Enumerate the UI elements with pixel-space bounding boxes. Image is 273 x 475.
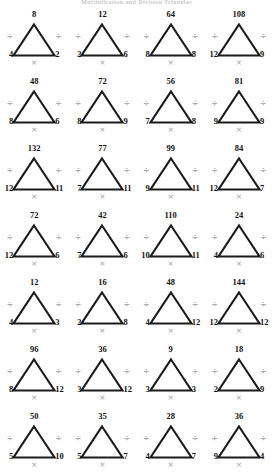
multiply-icon-bottom: × <box>236 327 242 335</box>
product-value: 99 <box>166 144 175 153</box>
product-value: 28 <box>166 412 175 421</box>
product-value: 144 <box>233 278 246 287</box>
factor-left-value: 9 <box>214 452 218 461</box>
triangle-problem-21[interactable]: 96 ÷ ÷ × 8 12 <box>0 341 68 408</box>
triangle-shape <box>79 424 125 460</box>
triangle-shape <box>148 223 194 259</box>
factor-right-value: 6 <box>123 251 127 260</box>
divide-icon-left: ÷ <box>75 368 82 376</box>
triangle-shape <box>79 223 125 259</box>
triangle-problem-16[interactable]: 24 ÷ ÷ × 4 6 <box>205 207 273 274</box>
product-value: 72 <box>30 211 39 220</box>
triangle-problem-14[interactable]: 42 ÷ ÷ × 7 6 <box>68 207 136 274</box>
triangle-shape <box>216 357 262 393</box>
product-value: 12 <box>98 10 107 19</box>
multiply-icon-bottom: × <box>167 193 173 201</box>
triangle-problem-28[interactable]: 36 ÷ ÷ × 9 4 <box>205 408 273 475</box>
triangle-shape <box>148 22 194 58</box>
divide-icon-left: ÷ <box>6 368 13 376</box>
factor-right-value: 2 <box>55 50 59 59</box>
divide-icon-left: ÷ <box>143 301 150 309</box>
triangle-problem-18[interactable]: 16 ÷ ÷ × 2 8 <box>68 274 136 341</box>
divide-icon-right: ÷ <box>123 301 130 309</box>
factor-left-value: 7 <box>77 184 81 193</box>
product-value: 36 <box>235 412 244 421</box>
triangle-problem-5[interactable]: 48 ÷ ÷ × 8 6 <box>0 73 68 140</box>
multiply-icon-bottom: × <box>99 126 105 134</box>
product-value: 50 <box>30 412 39 421</box>
triangle-problem-17[interactable]: 12 ÷ ÷ × 4 3 <box>0 274 68 341</box>
triangle-problem-3[interactable]: 64 ÷ ÷ × 8 8 <box>137 6 205 73</box>
divide-icon-right: ÷ <box>55 368 62 376</box>
divide-icon-right: ÷ <box>260 33 267 41</box>
multiply-icon-bottom: × <box>236 59 242 67</box>
factor-left-value: 9 <box>214 117 218 126</box>
triangle-problem-6[interactable]: 72 ÷ ÷ × 8 9 <box>68 73 136 140</box>
divide-icon-left: ÷ <box>143 435 150 443</box>
triangle-problem-12[interactable]: 84 ÷ ÷ × 12 7 <box>205 140 273 207</box>
multiply-icon-bottom: × <box>31 461 37 469</box>
multiply-icon-bottom: × <box>236 126 242 134</box>
divide-icon-right: ÷ <box>192 100 199 108</box>
multiply-icon-bottom: × <box>99 260 105 268</box>
divide-icon-left: ÷ <box>6 167 13 175</box>
divide-icon-right: ÷ <box>192 167 199 175</box>
divide-icon-right: ÷ <box>123 33 130 41</box>
factor-right-value: 9 <box>260 385 264 394</box>
triangle-problem-4[interactable]: 108 ÷ ÷ × 12 9 <box>205 6 273 73</box>
factor-left-value: 8 <box>9 117 13 126</box>
product-value: 132 <box>28 144 41 153</box>
factor-right-value: 12 <box>123 385 132 394</box>
triangle-problem-24[interactable]: 18 ÷ ÷ × 2 9 <box>205 341 273 408</box>
triangle-problem-22[interactable]: 36 ÷ ÷ × 3 12 <box>68 341 136 408</box>
divide-icon-left: ÷ <box>75 33 82 41</box>
factor-left-value: 5 <box>77 452 81 461</box>
factor-right-value: 12 <box>55 385 64 394</box>
product-value: 72 <box>98 77 107 86</box>
triangle-problem-23[interactable]: 9 ÷ ÷ × 3 3 <box>137 341 205 408</box>
divide-icon-left: ÷ <box>6 100 13 108</box>
factor-right-value: 10 <box>55 452 64 461</box>
triangle-problem-8[interactable]: 81 ÷ ÷ × 9 9 <box>205 73 273 140</box>
product-value: 64 <box>166 10 175 19</box>
triangle-problem-25[interactable]: 50 ÷ ÷ × 5 10 <box>0 408 68 475</box>
product-value: 96 <box>30 345 39 354</box>
divide-icon-left: ÷ <box>6 234 13 242</box>
divide-icon-left: ÷ <box>75 234 82 242</box>
triangle-problem-2[interactable]: 12 ÷ ÷ × 2 6 <box>68 6 136 73</box>
triangle-problem-10[interactable]: 77 ÷ ÷ × 7 11 <box>68 140 136 207</box>
divide-icon-right: ÷ <box>123 435 130 443</box>
divide-icon-right: ÷ <box>123 368 130 376</box>
factor-left-value: 8 <box>145 50 149 59</box>
triangle-problem-19[interactable]: 48 ÷ ÷ × 4 12 <box>137 274 205 341</box>
product-value: 16 <box>98 278 107 287</box>
triangle-shape <box>11 357 57 393</box>
factor-right-value: 3 <box>192 385 196 394</box>
product-value: 12 <box>30 278 39 287</box>
multiply-icon-bottom: × <box>99 327 105 335</box>
triangle-problem-1[interactable]: 8 ÷ ÷ × 4 2 <box>0 6 68 73</box>
factor-left-value: 10 <box>141 251 150 260</box>
multiply-icon-bottom: × <box>99 394 105 402</box>
triangle-problem-11[interactable]: 99 ÷ ÷ × 9 11 <box>137 140 205 207</box>
triangle-shape <box>216 89 262 125</box>
divide-icon-left: ÷ <box>75 435 82 443</box>
product-value: 24 <box>235 211 244 220</box>
triangle-problem-26[interactable]: 35 ÷ ÷ × 5 7 <box>68 408 136 475</box>
triangle-problem-13[interactable]: 72 ÷ ÷ × 12 6 <box>0 207 68 274</box>
triangle-problem-9[interactable]: 132 ÷ ÷ × 12 11 <box>0 140 68 207</box>
multiply-icon-bottom: × <box>236 260 242 268</box>
product-value: 110 <box>164 211 176 220</box>
divide-icon-right: ÷ <box>260 368 267 376</box>
factor-right-value: 8 <box>123 318 127 327</box>
triangle-problem-15[interactable]: 110 ÷ ÷ × 10 11 <box>137 207 205 274</box>
divide-icon-right: ÷ <box>123 234 130 242</box>
triangle-problem-7[interactable]: 56 ÷ ÷ × 7 8 <box>137 73 205 140</box>
triangle-problem-20[interactable]: 144 ÷ ÷ × 12 12 <box>205 274 273 341</box>
multiply-icon-bottom: × <box>167 59 173 67</box>
divide-icon-right: ÷ <box>192 435 199 443</box>
multiply-icon-bottom: × <box>31 394 37 402</box>
triangle-problem-27[interactable]: 28 ÷ ÷ × 4 7 <box>137 408 205 475</box>
factor-left-value: 4 <box>9 318 13 327</box>
multiply-icon-bottom: × <box>167 461 173 469</box>
